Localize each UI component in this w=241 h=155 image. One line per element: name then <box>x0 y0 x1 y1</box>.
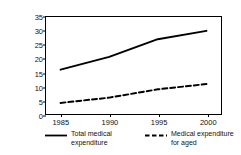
legend-item-total-medical-expenditure: Total medical expenditure <box>45 130 135 147</box>
y-tick-label: 30 <box>35 27 43 36</box>
series-total-medical-expenditure-line <box>61 31 207 70</box>
x-tick-mark <box>61 114 62 117</box>
y-tick-label: 5 <box>39 97 43 106</box>
legend-label: Medical expenditure for aged <box>171 130 234 147</box>
solid-line-icon <box>45 131 67 140</box>
plot-area: 05101520253035 1985199019952000 <box>45 16 222 115</box>
y-tick-mark <box>43 116 46 117</box>
x-tick-label: 1990 <box>102 118 119 127</box>
x-tick-mark <box>110 114 111 117</box>
y-tick-label: 20 <box>35 55 43 64</box>
y-tick-mark <box>43 17 46 18</box>
y-tick-label: 35 <box>35 13 43 22</box>
dashed-line-icon <box>145 131 167 140</box>
y-tick-mark <box>43 73 46 74</box>
legend-label: Total medical expenditure <box>71 130 112 147</box>
chart-legend: Total medical expenditure Medical expend… <box>45 130 235 147</box>
x-tick-label: 1995 <box>151 118 168 127</box>
line-chart: Trillion yen 05101520253035 198519901995… <box>0 0 241 155</box>
y-tick-mark <box>43 59 46 60</box>
y-tick-mark <box>43 87 46 88</box>
series-medical-expenditure-for-aged-line <box>61 84 207 103</box>
y-tick-mark <box>43 101 46 102</box>
x-tick-label: 2000 <box>200 118 217 127</box>
y-tick-label: 10 <box>35 83 43 92</box>
x-tick-label: 1985 <box>52 118 69 127</box>
x-tick-mark <box>159 114 160 117</box>
y-tick-label: 25 <box>35 41 43 50</box>
y-tick-mark <box>43 31 46 32</box>
y-tick-mark <box>43 45 46 46</box>
plot-series-svg <box>46 17 221 114</box>
y-tick-label: 0 <box>39 112 43 121</box>
legend-item-medical-expenditure-for-aged: Medical expenditure for aged <box>145 130 235 147</box>
x-tick-mark <box>208 114 209 117</box>
y-tick-label: 15 <box>35 69 43 78</box>
